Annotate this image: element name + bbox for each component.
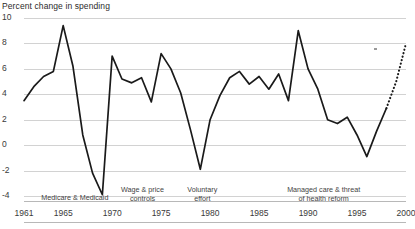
x-tick-label: 1980: [201, 208, 220, 218]
chart-annotation: Wage & price controls: [121, 186, 164, 203]
chart-title: Percent change in spending: [2, 1, 110, 11]
x-tick-label: 1965: [54, 208, 73, 218]
x-tick-label: 1990: [299, 208, 318, 218]
x-tick-label: 1961: [15, 208, 34, 218]
y-tick-label: 10: [2, 12, 22, 22]
x-tick-label: 1970: [103, 208, 122, 218]
chart-annotation: Medicare & Medicaid: [41, 194, 108, 203]
y-tick-label: 6: [2, 63, 22, 73]
x-tick-label: 1975: [152, 208, 171, 218]
chart-annotation: Managed care & threat of health reform: [287, 186, 360, 203]
x-tick-label: 1995: [348, 208, 367, 218]
y-tick-label: 0: [2, 139, 22, 149]
y-tick-label: -2: [2, 165, 22, 175]
stray-mark: [374, 48, 377, 50]
series-layer: [24, 18, 406, 196]
y-tick-label: 8: [2, 37, 22, 47]
x-axis-rule-bottom: [24, 222, 406, 223]
y-tick-label: -4: [2, 190, 22, 200]
x-tick-label: 2000: [397, 208, 415, 218]
x-tick-label: 1985: [250, 208, 269, 218]
y-tick-label: 4: [2, 88, 22, 98]
series-line-actual: [24, 26, 386, 195]
plot-area: [24, 18, 406, 196]
y-tick-label: 2: [2, 114, 22, 124]
series-line-projected: [386, 43, 406, 108]
chart-annotation: Voluntary effort: [187, 186, 217, 203]
